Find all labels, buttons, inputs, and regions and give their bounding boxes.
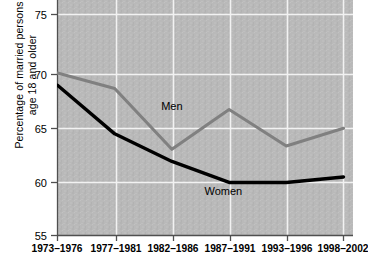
- y-tick-label-65: 65: [35, 123, 47, 135]
- y-tick-label-75: 75: [35, 9, 47, 21]
- x-axis-ticks: [58, 236, 344, 242]
- x-tick-label-4: 1993–1996: [262, 243, 313, 254]
- series-annotation-women: Women: [205, 185, 243, 197]
- line-chart-plot: 75 70 65 60 55 1973–1976 1977–1981 1982–…: [0, 0, 368, 257]
- x-tick-label-5: 1998–2002: [318, 243, 368, 254]
- x-tick-label-0: 1973–1976: [32, 243, 83, 254]
- y-tick-label-55: 55: [35, 230, 47, 242]
- x-tick-label-2: 1982–1986: [148, 243, 199, 254]
- x-tick-label-1: 1977–1981: [91, 243, 142, 254]
- y-tick-label-60: 60: [35, 177, 47, 189]
- plot-background: [57, 0, 353, 235]
- series-annotation-men: Men: [161, 100, 182, 112]
- chart-figure: Percentage of married persons age 18 and…: [0, 0, 368, 257]
- y-tick-label-70: 70: [35, 69, 47, 81]
- x-tick-label-3: 1987–1991: [205, 243, 256, 254]
- y-axis-ticks: [51, 15, 57, 236]
